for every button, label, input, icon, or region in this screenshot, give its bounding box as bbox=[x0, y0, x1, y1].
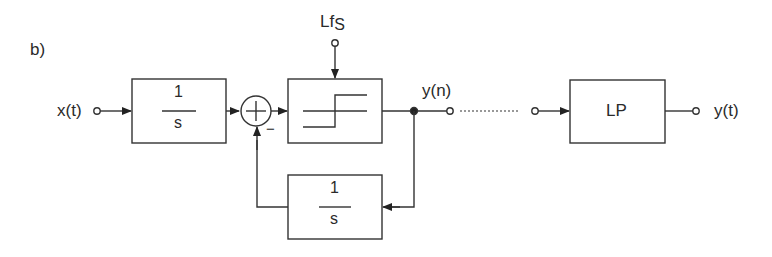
yn-label: y(n) bbox=[422, 81, 451, 101]
clock-label-main: Lf bbox=[320, 12, 334, 31]
integrator-feedback-denominator: s bbox=[330, 210, 338, 228]
integrator-forward-numerator: 1 bbox=[174, 83, 183, 101]
clock-label: LfS bbox=[320, 12, 345, 32]
output-label: y(t) bbox=[714, 101, 739, 121]
integrator-forward-denominator: s bbox=[174, 114, 182, 132]
clock-label-sub: S bbox=[334, 16, 345, 33]
input-terminal bbox=[94, 108, 100, 114]
output-terminal bbox=[693, 108, 699, 114]
sigma-delta-block-diagram: b) x(t) 1 s − LfS y(n) LP y(t) 1 s bbox=[0, 0, 772, 257]
diagram-lines bbox=[0, 0, 772, 257]
panel-label: b) bbox=[30, 40, 45, 60]
integrator-feedback-numerator: 1 bbox=[330, 179, 339, 197]
yn-terminal bbox=[447, 108, 453, 114]
clock-terminal bbox=[332, 40, 338, 46]
minus-sign: − bbox=[266, 120, 275, 137]
input-label: x(t) bbox=[57, 101, 82, 121]
lp-input-terminal bbox=[532, 108, 538, 114]
lowpass-label: LP bbox=[606, 101, 627, 121]
